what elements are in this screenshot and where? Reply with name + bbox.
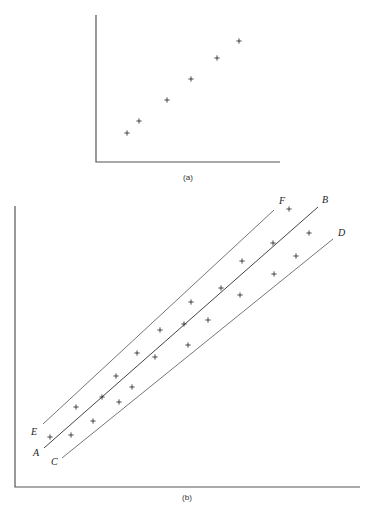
line-cd — [62, 239, 333, 458]
data-point-marker — [129, 384, 134, 389]
line-ef — [43, 210, 274, 424]
panel-b-scatter-with-bounds: EACFBD (b) — [15, 194, 360, 502]
panel-b-line-labels: EACFBD — [30, 194, 346, 467]
data-point-marker — [73, 404, 78, 409]
data-point-marker — [113, 373, 118, 378]
data-point-marker — [164, 97, 169, 102]
panel-a-caption: (a) — [183, 173, 193, 182]
data-point-marker — [157, 327, 162, 332]
data-point-marker — [188, 299, 193, 304]
figure: (a) EACFBD (b) — [0, 0, 373, 510]
panel-b-lines — [43, 207, 333, 458]
panel-b-axes — [15, 206, 360, 487]
data-point-marker — [124, 130, 129, 135]
label-c: C — [51, 456, 58, 467]
data-point-marker — [136, 118, 141, 123]
data-point-marker — [47, 434, 52, 439]
label-b: B — [322, 194, 328, 205]
data-point-marker — [68, 432, 73, 437]
data-point-marker — [237, 292, 242, 297]
data-point-marker — [306, 230, 311, 235]
data-point-marker — [214, 55, 219, 60]
data-point-marker — [205, 317, 210, 322]
panel-a-axes — [96, 15, 280, 162]
label-f: F — [278, 195, 286, 206]
data-point-marker — [188, 76, 193, 81]
data-point-marker — [134, 350, 139, 355]
data-point-marker — [286, 206, 291, 211]
panel-a-points — [124, 38, 241, 135]
data-point-marker — [236, 38, 241, 43]
data-point-marker — [90, 418, 95, 423]
label-e: E — [30, 426, 37, 437]
label-d: D — [337, 227, 346, 238]
data-point-marker — [185, 342, 190, 347]
data-point-marker — [152, 354, 157, 359]
panel-a-scatter: (a) — [96, 15, 280, 182]
label-a: A — [32, 447, 40, 458]
line-ab — [44, 207, 318, 448]
data-point-marker — [239, 258, 244, 263]
data-point-marker — [271, 271, 276, 276]
panel-b-caption: (b) — [182, 493, 192, 502]
data-point-marker — [293, 253, 298, 258]
data-point-marker — [116, 399, 121, 404]
data-point-marker — [218, 285, 223, 290]
panel-b-points — [47, 206, 311, 439]
